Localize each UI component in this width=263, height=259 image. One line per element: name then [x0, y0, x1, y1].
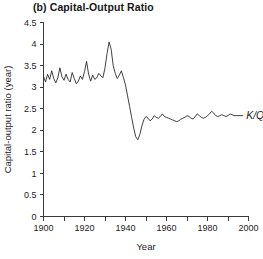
x-tick-label: 1960	[156, 223, 176, 233]
y-tick-label: 0	[31, 212, 36, 222]
y-tick-label: 4	[31, 39, 36, 49]
x-axis-ticks: 190019201940196019802000	[33, 217, 258, 234]
y-tick-label: 1.5	[24, 147, 37, 157]
x-tick-label: 2000	[238, 223, 258, 233]
data-series-line	[44, 42, 235, 140]
y-tick-label: 3	[31, 82, 36, 92]
y-tick-label: 2.5	[24, 104, 37, 114]
y-axis-title: Capital-output ratio (year)	[2, 66, 13, 174]
y-tick-label: 1	[31, 169, 36, 179]
y-tick-label: 2	[31, 125, 36, 135]
chart-plot-area: 00.511.522.533.544.5 1900192019401960198…	[0, 0, 263, 259]
y-tick-label: 4.5	[24, 18, 37, 28]
y-axis-ticks: 00.511.522.533.544.5	[24, 18, 44, 222]
x-tick-label: 1940	[115, 223, 135, 233]
x-tick-label: 1900	[33, 223, 53, 233]
x-tick-label: 1920	[74, 223, 94, 233]
figure-container: (b) Capital-Output Ratio 00.511.522.533.…	[0, 0, 263, 259]
x-tick-label: 1980	[197, 223, 217, 233]
y-tick-label: 0.5	[24, 190, 37, 200]
series-label: K/Q	[246, 109, 263, 121]
x-axis-title: Year	[136, 241, 155, 252]
y-tick-label: 3.5	[24, 61, 37, 71]
